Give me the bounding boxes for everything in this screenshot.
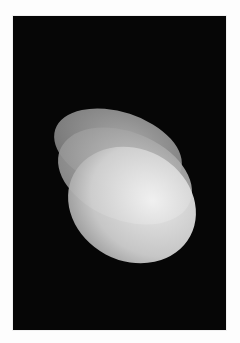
ellipses-graphic — [13, 16, 226, 330]
artwork-photo — [13, 16, 226, 330]
